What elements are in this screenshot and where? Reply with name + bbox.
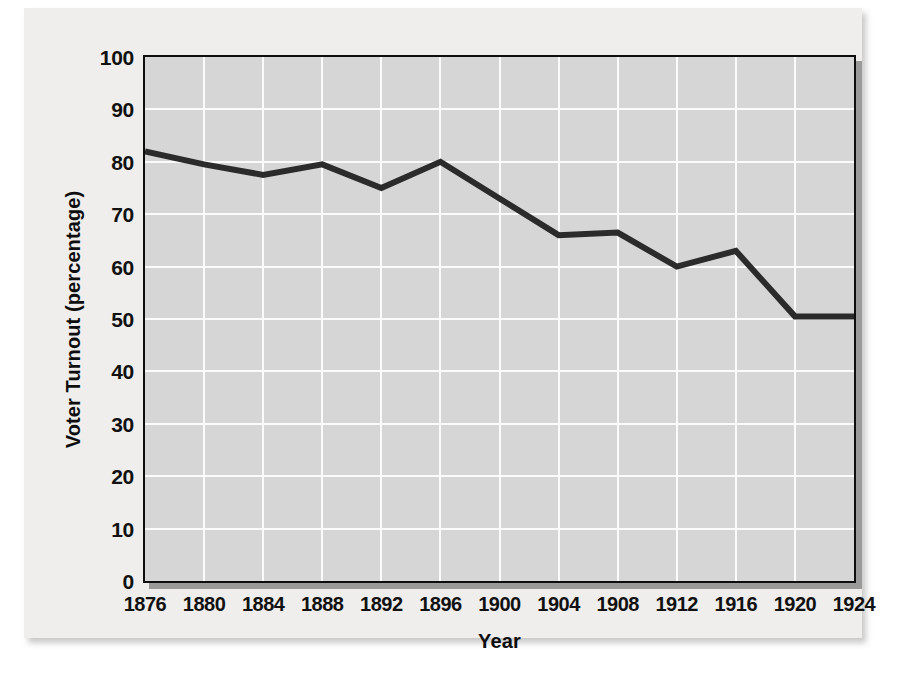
y-axis-tick-label: 20 bbox=[111, 466, 134, 487]
x-axis-tick-labels: 1876188018841888189218961900190419081912… bbox=[143, 594, 856, 622]
y-axis-tick-label: 50 bbox=[111, 309, 134, 330]
x-axis-tick-label: 1880 bbox=[183, 594, 226, 614]
y-axis-tick-label: 90 bbox=[111, 99, 134, 120]
x-axis-tick-label: 1908 bbox=[596, 594, 639, 614]
y-axis-title: Voter Turnout (percentage) bbox=[62, 85, 85, 555]
data-series-voter-turnout bbox=[145, 57, 854, 581]
plot-area bbox=[143, 55, 856, 583]
y-axis-tick-label: 100 bbox=[100, 47, 134, 68]
y-axis-tick-label: 40 bbox=[111, 361, 134, 382]
x-axis-tick-label: 1920 bbox=[774, 594, 817, 614]
x-axis-tick-label: 1924 bbox=[833, 594, 876, 614]
plot-inner bbox=[145, 57, 854, 581]
x-axis-tick-label: 1904 bbox=[537, 594, 580, 614]
chart-screenshot: 0102030405060708090100 18761880188418881… bbox=[0, 0, 899, 690]
x-axis-tick-label: 1876 bbox=[124, 594, 167, 614]
x-axis-tick-label: 1896 bbox=[419, 594, 462, 614]
y-axis-tick-label: 80 bbox=[111, 151, 134, 172]
x-axis-tick-label: 1884 bbox=[242, 594, 285, 614]
x-axis-tick-label: 1912 bbox=[656, 594, 699, 614]
y-axis-tick-label: 60 bbox=[111, 256, 134, 277]
x-axis-title: Year bbox=[143, 630, 856, 653]
y-axis-tick-label: 0 bbox=[123, 571, 134, 592]
figure-card: 0102030405060708090100 18761880188418881… bbox=[24, 8, 862, 638]
y-axis-tick-label: 10 bbox=[111, 518, 134, 539]
y-axis-tick-label: 70 bbox=[111, 204, 134, 225]
x-axis-tick-label: 1892 bbox=[360, 594, 403, 614]
x-axis-tick-label: 1900 bbox=[478, 594, 521, 614]
x-axis-tick-label: 1888 bbox=[301, 594, 344, 614]
y-axis-tick-label: 30 bbox=[111, 413, 134, 434]
x-axis-tick-label: 1916 bbox=[715, 594, 758, 614]
